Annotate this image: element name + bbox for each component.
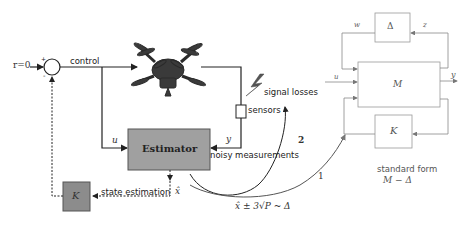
w-label: w bbox=[354, 22, 360, 29]
reference-label: r=0 bbox=[13, 61, 31, 70]
drone-icon bbox=[131, 42, 206, 96]
standard-form-caption: standard form bbox=[377, 165, 437, 174]
estimator-label: Estimator bbox=[142, 144, 197, 154]
standard-form-subcaption: M − Δ bbox=[383, 176, 412, 185]
summing-junction bbox=[44, 59, 60, 75]
plant-output-line bbox=[201, 67, 241, 105]
m-label: M bbox=[393, 80, 402, 89]
sensor-box bbox=[236, 105, 246, 118]
sensors-label: sensors bbox=[248, 106, 281, 115]
control-label: control bbox=[70, 57, 99, 66]
arc-2-label: 2 bbox=[298, 136, 304, 145]
sf-k-label: K bbox=[390, 126, 397, 136]
xhat-label: x̂ bbox=[175, 187, 180, 196]
arc-1-label: 1 bbox=[318, 172, 324, 181]
signal-losses-label: signal losses bbox=[264, 88, 318, 97]
sum-plus-sign: + bbox=[41, 56, 46, 62]
z-label: z bbox=[423, 22, 427, 29]
noisy-measurements-label: noisy measurements bbox=[210, 151, 299, 160]
uncertainty-expression: x̂ ± 3√P ~ Δ bbox=[235, 202, 291, 211]
sf-u-label: u bbox=[334, 74, 339, 81]
sum-minus-sign: - bbox=[43, 73, 46, 80]
u-label: u bbox=[112, 136, 118, 145]
arc-1 bbox=[190, 135, 345, 197]
diagram-canvas: r=0 + - control signal losses sensors Es… bbox=[0, 0, 470, 225]
feedback-line bbox=[52, 77, 63, 196]
y-label: y bbox=[226, 135, 231, 144]
sf-y-label: y bbox=[451, 71, 456, 79]
controller-k-label: K bbox=[72, 191, 79, 201]
state-estimation-label: state estimation bbox=[101, 188, 170, 197]
diagram-lines bbox=[0, 0, 470, 225]
lightning-bolt-icon bbox=[246, 74, 264, 96]
delta-label: Δ bbox=[387, 22, 394, 31]
